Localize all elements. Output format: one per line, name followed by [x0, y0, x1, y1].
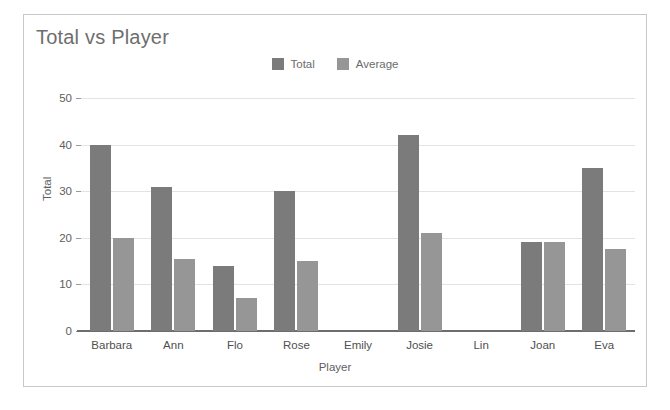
bar-average[interactable] — [605, 249, 626, 331]
bar-average[interactable] — [113, 238, 134, 331]
bar-total[interactable] — [213, 266, 234, 331]
chart-title: Total vs Player — [36, 26, 169, 49]
bars — [204, 98, 266, 331]
bar-group: Emily — [327, 98, 389, 331]
y-axis-tick-label: 10 — [59, 278, 72, 290]
legend-swatch-total — [272, 58, 284, 70]
bar-group: Josie — [389, 98, 451, 331]
bar-group: Lin — [450, 98, 512, 331]
bar-total[interactable] — [90, 145, 111, 331]
bar-group: Barbara — [81, 98, 143, 331]
bar-total[interactable] — [521, 242, 542, 331]
plot-area: 01020304050 BarbaraAnnFloRoseEmilyJosieL… — [81, 98, 635, 331]
bars — [512, 98, 574, 331]
y-axis-title: Total — [41, 177, 53, 201]
bar-average[interactable] — [421, 233, 442, 331]
y-axis-tick-label: 50 — [59, 92, 72, 104]
bar-total[interactable] — [582, 168, 603, 331]
bar-average[interactable] — [544, 242, 565, 331]
legend-item-total[interactable]: Total — [272, 58, 315, 70]
legend-item-average[interactable]: Average — [337, 58, 399, 70]
bars — [450, 98, 512, 331]
chart-card: Total vs Player Total Average Total 0102… — [23, 14, 647, 387]
bar-average[interactable] — [236, 298, 257, 331]
x-axis-tick-label: Eva — [574, 339, 636, 351]
bar-total[interactable] — [151, 187, 172, 331]
bar-group: Joan — [512, 98, 574, 331]
y-axis-tick-label: 30 — [59, 185, 72, 197]
x-axis-title: Player — [24, 361, 646, 373]
x-axis-tick-label: Lin — [450, 339, 512, 351]
legend-swatch-average — [337, 58, 349, 70]
bar-groups: BarbaraAnnFloRoseEmilyJosieLinJoanEva — [81, 98, 635, 331]
bar-total[interactable] — [398, 135, 419, 331]
bars — [266, 98, 328, 331]
legend-label-average: Average — [356, 58, 399, 70]
bar-group: Rose — [266, 98, 328, 331]
x-axis-tick-label: Josie — [389, 339, 451, 351]
chart-legend: Total Average — [24, 58, 646, 70]
bars — [389, 98, 451, 331]
bars — [81, 98, 143, 331]
x-axis-tick-label: Barbara — [81, 339, 143, 351]
y-axis-tick-label: 20 — [59, 232, 72, 244]
bar-group: Flo — [204, 98, 266, 331]
bar-group: Ann — [143, 98, 205, 331]
y-axis-tick-label: 40 — [59, 139, 72, 151]
bar-total[interactable] — [274, 191, 295, 331]
bar-group: Eva — [574, 98, 636, 331]
x-axis-tick-label: Rose — [266, 339, 328, 351]
x-axis-tick-label: Joan — [512, 339, 574, 351]
bars — [574, 98, 636, 331]
x-axis-tick-label: Flo — [204, 339, 266, 351]
bar-average[interactable] — [174, 259, 195, 331]
y-axis-tick-label: 0 — [66, 325, 72, 337]
x-axis-tick-label: Emily — [327, 339, 389, 351]
bars — [327, 98, 389, 331]
bar-average[interactable] — [297, 261, 318, 331]
legend-label-total: Total — [291, 58, 315, 70]
bars — [143, 98, 205, 331]
x-axis-tick-label: Ann — [143, 339, 205, 351]
